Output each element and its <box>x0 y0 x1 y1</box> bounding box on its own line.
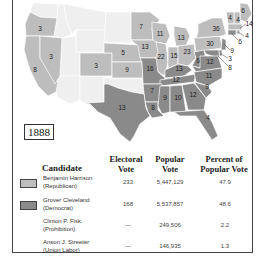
header-percent-line2: Popular Vote <box>194 165 254 175</box>
candidate-party: (Prohibition) <box>43 225 81 233</box>
territory-mt <box>64 4 106 34</box>
label-ma: 14 <box>245 20 253 27</box>
label-ca: 8 <box>33 66 37 73</box>
label-md: 8 <box>228 64 232 71</box>
electoral-vote: — <box>114 242 142 250</box>
candidate-name: Benjamin Harrison <box>43 174 92 182</box>
label-fl: 4 <box>206 114 210 121</box>
candidate-cell: Clinton P. Fisk (Prohibition) <box>43 217 81 233</box>
header-electoral: Electoral Vote <box>104 155 148 174</box>
popular-vote: 5,447,129 <box>150 178 190 186</box>
header-candidate: Candidate <box>42 164 92 174</box>
state-fl <box>174 110 218 140</box>
label-wv: 6 <box>196 57 200 64</box>
percent-vote: 48.6 <box>208 200 242 208</box>
table-row-harrison: Benjamin Harrison (Republican) 233 5,447… <box>0 174 265 195</box>
candidate-name: Grover Cleveland <box>43 196 90 204</box>
header-popular-line2: Vote <box>150 165 190 175</box>
percent-vote: 2.2 <box>208 221 242 229</box>
label-vt: 4 <box>228 14 232 21</box>
label-wi: 11 <box>157 30 164 37</box>
popular-vote: 249,506 <box>150 221 190 229</box>
label-al: 10 <box>174 94 182 101</box>
label-sc: 9 <box>205 83 209 90</box>
electoral-vote: 168 <box>114 200 142 208</box>
territory-nm <box>80 76 104 103</box>
label-me: 6 <box>241 7 245 14</box>
label-il: 22 <box>157 53 165 60</box>
candidate-cell: Benjamin Harrison (Republican) <box>43 174 92 190</box>
state-ma <box>228 24 242 30</box>
label-or: 3 <box>38 25 42 32</box>
table-row-fisk: Clinton P. Fisk (Prohibition) — 249,506 … <box>0 217 265 238</box>
label-va: 12 <box>206 58 214 65</box>
table-row-cleveland: Grover Cleveland (Democrat) 168 5,537,85… <box>0 196 265 217</box>
table-row-streeter: Anson J. Streeter (Union Labor) — 146,93… <box>0 238 265 259</box>
percent-vote: 1.3 <box>208 242 242 250</box>
candidate-party: (Democrat) <box>43 204 90 212</box>
label-nc: 11 <box>206 72 213 79</box>
candidate-name: Anson J. Streeter <box>43 238 89 246</box>
label-mi: 13 <box>177 34 185 41</box>
candidate-party: (Union Labor) <box>43 246 89 254</box>
header-popular: Popular Vote <box>150 155 190 174</box>
candidate-name: Clinton P. Fisk <box>43 217 81 225</box>
label-ms: 9 <box>163 94 167 101</box>
electoral-vote: 233 <box>114 178 142 186</box>
territory-wy <box>76 30 105 52</box>
popular-vote: 146,935 <box>150 242 190 250</box>
popular-vote: 5,537,857 <box>150 200 190 208</box>
label-tn: 12 <box>172 76 180 83</box>
electoral-vote: — <box>114 221 142 229</box>
state-ny <box>196 18 226 38</box>
swatch-democrat <box>20 201 37 210</box>
year-label: 1888 <box>24 124 54 140</box>
label-mo: 16 <box>146 65 154 72</box>
territory-az <box>55 76 80 104</box>
label-ne: 5 <box>121 49 125 56</box>
label-nh: 4 <box>236 16 240 23</box>
header-percent: Percent of Popular Vote <box>194 155 254 174</box>
label-in: 15 <box>170 52 178 59</box>
label-oh: 23 <box>183 48 191 55</box>
state-de <box>219 50 222 56</box>
label-pa: 30 <box>206 40 214 47</box>
label-nj: 9 <box>230 47 234 54</box>
label-tx: 13 <box>118 104 126 111</box>
candidate-cell: Anson J. Streeter (Union Labor) <box>43 238 89 254</box>
label-ny: 36 <box>212 25 220 32</box>
label-ia: 13 <box>141 43 149 50</box>
candidate-cell: Grover Cleveland (Democrat) <box>43 196 90 212</box>
label-ga: 12 <box>189 91 197 98</box>
label-ri: 4 <box>245 32 249 39</box>
label-ky: 13 <box>175 65 183 72</box>
label-de: 3 <box>228 55 232 62</box>
swatch-republican <box>20 179 37 188</box>
state-nj <box>221 38 226 50</box>
candidate-party: (Republican) <box>43 182 92 190</box>
label-mn: 7 <box>139 23 143 30</box>
label-ar: 7 <box>150 87 154 94</box>
territory-dakota <box>104 12 131 43</box>
label-ct: 6 <box>238 38 242 45</box>
label-nv: 3 <box>49 53 53 60</box>
label-ks: 9 <box>125 66 129 73</box>
header-electoral-line2: Vote <box>104 165 148 175</box>
label-la: 8 <box>151 104 155 111</box>
label-co: 3 <box>94 62 98 69</box>
percent-vote: 47.9 <box>208 178 242 186</box>
